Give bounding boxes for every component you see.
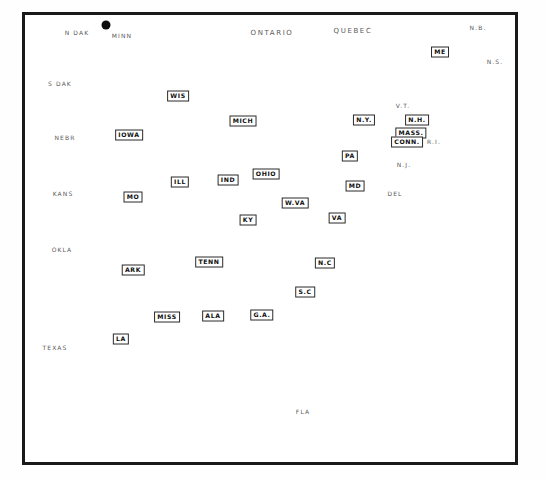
state-label-va: VA bbox=[329, 213, 346, 224]
state-label-wva: W.VA bbox=[282, 198, 309, 209]
region-label-quebec: QUEBEC bbox=[334, 27, 373, 35]
state-label-tenn: TENN bbox=[195, 257, 223, 268]
region-label-okla: OKLA bbox=[52, 246, 73, 253]
state-label-la: LA bbox=[113, 334, 129, 345]
map-figure: WIS MICH IOWA ILL IND OHIO MO KY W.VA VA… bbox=[0, 0, 546, 481]
region-label-ontario: ONTARIO bbox=[251, 29, 294, 37]
region-label-ri: R.I. bbox=[427, 138, 441, 145]
map-frame-border bbox=[22, 12, 518, 465]
state-label-pa: PA bbox=[342, 151, 358, 162]
region-label-vt: V.T. bbox=[396, 102, 411, 109]
region-label-ns: N.S. bbox=[487, 58, 504, 65]
city-marker-dot bbox=[102, 21, 111, 30]
state-label-ohio: OHIO bbox=[253, 169, 280, 180]
region-label-kans: KANS bbox=[53, 190, 74, 197]
state-label-ny: N.Y. bbox=[353, 115, 375, 126]
region-label-texas: TEXAS bbox=[43, 344, 68, 351]
region-label-sdak: S DAK bbox=[48, 80, 72, 87]
state-label-sc: S.C bbox=[295, 287, 315, 298]
region-label-nj: N.J. bbox=[397, 161, 411, 168]
state-label-miss: MISS bbox=[154, 312, 180, 323]
region-label-ndak: N DAK bbox=[65, 29, 89, 36]
state-label-ind: IND bbox=[218, 175, 239, 186]
state-label-md: MD bbox=[346, 181, 365, 192]
region-label-nb: N.B. bbox=[470, 24, 487, 31]
state-label-ark: ARK bbox=[122, 265, 145, 276]
state-label-nh: N.H. bbox=[405, 115, 429, 126]
state-label-ala: ALA bbox=[202, 311, 224, 322]
region-label-nebr: NEBR bbox=[55, 134, 76, 141]
state-label-mo: MO bbox=[124, 192, 143, 203]
state-label-nc: N.C bbox=[315, 258, 335, 269]
state-label-conn: CONN. bbox=[391, 137, 423, 148]
state-label-iowa: IOWA bbox=[115, 130, 143, 141]
state-label-wis: WIS bbox=[167, 91, 189, 102]
region-label-del: DEL bbox=[387, 190, 402, 197]
state-label-ga: G.A. bbox=[250, 310, 273, 321]
region-label-fla: FLA bbox=[296, 408, 310, 415]
state-label-ill: ILL bbox=[171, 177, 189, 188]
region-label-minn: MINN bbox=[112, 32, 132, 39]
state-label-ky: KY bbox=[240, 215, 257, 226]
state-label-mich: MICH bbox=[230, 116, 257, 127]
state-label-me: ME bbox=[431, 47, 449, 58]
